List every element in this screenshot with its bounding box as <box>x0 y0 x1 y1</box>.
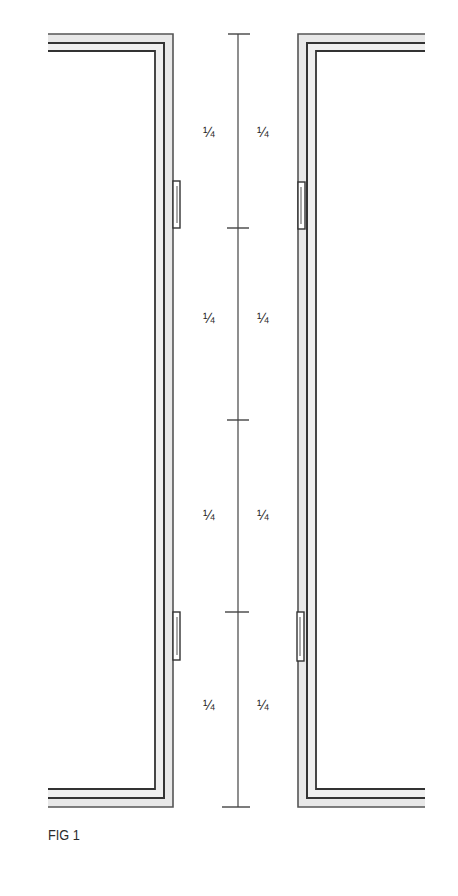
segment-2-left-label: ¼ <box>203 310 214 326</box>
segment-3-left-label: ¼ <box>203 507 214 523</box>
segment-4-right-label: ¼ <box>257 697 268 713</box>
right-door-frame <box>298 34 425 807</box>
segment-1-left-label: ¼ <box>203 124 214 140</box>
right-hinge-bottom <box>297 612 304 661</box>
right-hinge-top <box>298 182 305 229</box>
segment-1-right-label: ¼ <box>257 124 268 140</box>
segment-2-right-label: ¼ <box>257 310 268 326</box>
left-hinge-top <box>173 181 180 228</box>
left-door-frame <box>48 34 173 807</box>
figure-caption: FIG 1 <box>48 826 80 843</box>
left-hinge-bottom <box>173 612 180 660</box>
segment-4-left-label: ¼ <box>203 697 214 713</box>
segment-3-right-label: ¼ <box>257 507 268 523</box>
door-frame-diagram <box>0 0 458 896</box>
dimension-line <box>222 34 250 807</box>
